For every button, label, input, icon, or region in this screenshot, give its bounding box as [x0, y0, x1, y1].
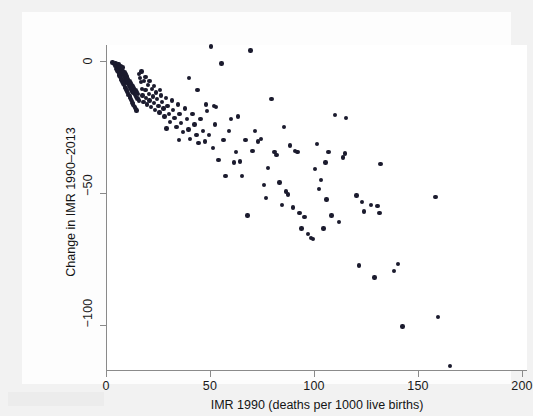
x-tick-label-0: 0 [102, 379, 109, 393]
data-point [341, 155, 345, 159]
data-point [168, 120, 172, 124]
x-axis-title: IMR 1990 (deaths per 1000 live births) [107, 398, 527, 412]
data-point [236, 114, 240, 118]
data-point [378, 162, 382, 166]
data-point [146, 83, 150, 87]
data-point [170, 98, 174, 102]
data-point [164, 126, 168, 130]
data-point [192, 122, 196, 126]
x-tick-100 [314, 371, 315, 377]
data-point [113, 64, 117, 68]
data-point [436, 315, 440, 319]
data-point [179, 121, 183, 125]
data-point [176, 102, 180, 106]
data-point [274, 153, 278, 157]
data-point [344, 116, 348, 120]
data-point [311, 237, 315, 241]
y-tick-label--100-text: −100 [81, 293, 95, 333]
data-point [214, 105, 218, 109]
data-point [377, 211, 381, 215]
data-point [269, 97, 273, 101]
data-point [315, 142, 319, 146]
y-tick-label-0-text: 0 [81, 53, 95, 69]
y-tick-label-0: 0 [80, 54, 96, 68]
data-point [319, 178, 323, 182]
data-point [164, 96, 168, 100]
data-point [240, 174, 244, 178]
data-point [167, 112, 171, 116]
x-tick-150 [418, 371, 419, 377]
data-point [201, 129, 205, 133]
data-point [250, 149, 254, 153]
data-point [291, 205, 295, 209]
data-point [433, 195, 437, 199]
data-point [259, 137, 263, 141]
figure-root: 0 50 100 150 200 0 −50 −100 IMR 1990 (de… [0, 0, 533, 416]
data-point [188, 137, 192, 141]
data-point [158, 88, 162, 92]
data-point [153, 108, 157, 112]
data-point [139, 69, 143, 73]
data-point [286, 192, 290, 196]
data-point [323, 160, 327, 164]
data-point [357, 263, 361, 267]
data-point [295, 150, 299, 154]
x-tick-label-200: 200 [511, 379, 532, 393]
data-point [162, 114, 166, 118]
data-point [302, 215, 306, 219]
data-point [177, 138, 181, 142]
data-point [216, 158, 220, 162]
x-axis-line [106, 370, 527, 371]
data-point [372, 275, 376, 279]
data-point [207, 133, 211, 137]
data-point [400, 324, 404, 328]
data-point [227, 129, 231, 133]
data-point [174, 125, 178, 129]
data-point [213, 122, 217, 126]
data-point [223, 174, 227, 178]
x-tick-label-100: 100 [303, 379, 324, 393]
data-point [354, 193, 358, 197]
data-point [396, 262, 400, 266]
data-point [181, 130, 185, 134]
data-point [234, 150, 238, 154]
data-point [321, 226, 325, 230]
data-point [262, 183, 266, 187]
data-point [277, 180, 281, 184]
y-tick-label--50-text: −50 [81, 169, 95, 201]
data-point [369, 203, 373, 207]
data-point [448, 364, 452, 368]
x-tick-label-50: 50 [203, 379, 217, 393]
data-point [160, 100, 164, 104]
data-point [183, 106, 187, 110]
data-point [329, 213, 333, 217]
data-point [155, 97, 159, 101]
data-point [282, 125, 286, 129]
scan-artifact [8, 392, 104, 406]
data-point [266, 166, 270, 170]
scatter-plot-area [107, 45, 527, 370]
data-point [232, 160, 236, 164]
data-point [203, 139, 207, 143]
data-point [264, 196, 268, 200]
data-point [317, 187, 321, 191]
data-point [337, 220, 341, 224]
data-point [280, 203, 284, 207]
data-point [229, 117, 233, 121]
data-point [288, 143, 292, 147]
data-point [147, 79, 151, 83]
data-point [243, 138, 247, 142]
data-point [204, 102, 208, 106]
data-point [219, 61, 223, 65]
data-point [343, 151, 347, 155]
data-point [172, 116, 176, 120]
y-tick-0 [100, 61, 106, 62]
data-point [326, 150, 330, 154]
x-tick-50 [210, 371, 211, 377]
data-point [198, 117, 202, 121]
data-point [177, 112, 181, 116]
data-point [187, 76, 191, 80]
data-point [209, 44, 213, 48]
data-point [333, 113, 337, 117]
data-point [190, 112, 194, 116]
